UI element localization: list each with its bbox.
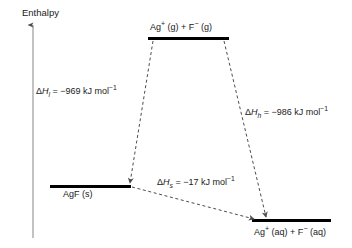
enthalpy-level-diagram: Enthalpy Ag+ (g) + F− (g) AgF (s) Ag+ (a… xyxy=(0,0,352,248)
transition-label-lattice-enthalpy: ΔHl = −969 kJ mol−1 xyxy=(36,85,117,99)
level-label-gaseous-ions: Ag+ (g) + F− (g) xyxy=(150,20,212,32)
transition-label-solution-enthalpy: ΔHs = −17 kJ mol−1 xyxy=(157,176,235,190)
level-label-aqueous-ions: Ag+ (aq) + F− (aq) xyxy=(254,225,326,237)
transition-label-hydration-enthalpy: ΔHh = −986 kJ mol−1 xyxy=(245,106,328,120)
enthalpy-axis-label: Enthalpy xyxy=(22,8,59,18)
level-label-solid-salt: AgF (s) xyxy=(63,190,93,199)
arrow-hydration-enthalpy xyxy=(224,41,266,217)
arrow-lattice-enthalpy xyxy=(130,41,153,183)
arrow-solution-enthalpy xyxy=(132,187,254,219)
diagram-canvas xyxy=(0,0,352,248)
